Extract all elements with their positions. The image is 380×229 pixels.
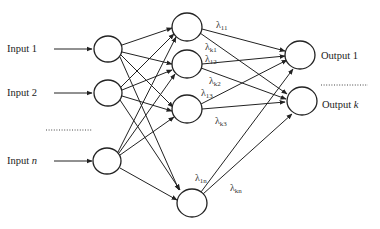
input-node-2 xyxy=(94,80,122,106)
output-node-1 xyxy=(285,41,315,69)
input-hidden-edges xyxy=(118,28,180,200)
weight-label-12: λ12 xyxy=(205,53,217,66)
weight-label-kn: λkn xyxy=(230,182,242,195)
weight-label-k2: λk2 xyxy=(209,75,221,88)
output-k-label: Output k xyxy=(322,99,359,110)
weight-label-1n: λ1n xyxy=(195,172,207,185)
input-n-label: Input n xyxy=(7,155,37,166)
weight-label-11: λ11 xyxy=(216,19,228,32)
input-node-n xyxy=(93,148,121,174)
hidden-node-n xyxy=(177,189,207,217)
weight-label-k3: λk3 xyxy=(215,115,227,128)
hidden-node-1 xyxy=(172,13,202,41)
output-node-k xyxy=(287,87,317,115)
input-arrows xyxy=(54,49,92,161)
input-1-label: Input 1 xyxy=(7,43,37,54)
output-layer xyxy=(285,41,317,115)
output-1-label: Output 1 xyxy=(321,50,358,61)
input-layer xyxy=(93,36,122,174)
input-node-1 xyxy=(94,36,122,62)
neural-network-diagram: Input 1 Input 2 Input n Output 1 Output … xyxy=(0,0,380,229)
hidden-node-2 xyxy=(172,50,202,78)
input-2-label: Input 2 xyxy=(7,87,37,98)
weight-label-13: λ13 xyxy=(201,87,213,100)
hidden-node-3 xyxy=(172,95,202,123)
